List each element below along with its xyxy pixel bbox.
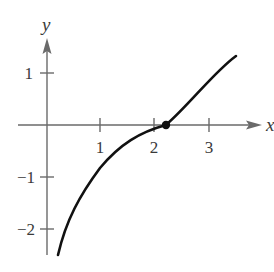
y-tick-label-neg1: −1 bbox=[17, 168, 35, 187]
x-axis-label: x bbox=[265, 114, 274, 135]
x-tick-label-2: 2 bbox=[150, 138, 159, 157]
y-tick-label-neg2: −2 bbox=[17, 220, 35, 239]
x-intercept-point bbox=[162, 121, 170, 129]
y-axis-label: y bbox=[40, 14, 51, 35]
x-tick-label-1: 1 bbox=[96, 138, 105, 157]
chart-canvas: 1 2 3 1 −1 −2 x y bbox=[0, 0, 274, 272]
y-tick-label-1: 1 bbox=[25, 64, 34, 83]
x-tick-label-3: 3 bbox=[205, 138, 214, 157]
